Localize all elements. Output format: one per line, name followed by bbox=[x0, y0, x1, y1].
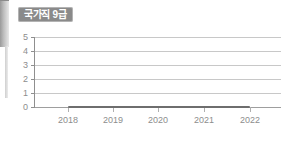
y-tick-mark bbox=[31, 107, 35, 108]
x-tick-label: 2022 bbox=[230, 116, 270, 125]
y-tick-mark bbox=[31, 51, 35, 52]
y-tick-label: 3 bbox=[14, 61, 28, 70]
series-line-gukgajik-9geup bbox=[68, 106, 250, 108]
y-tick-label: 0 bbox=[14, 103, 28, 112]
x-tick-label: 2021 bbox=[184, 116, 224, 125]
y-axis-labels: 5 4 3 2 1 0 bbox=[14, 26, 28, 144]
gridline-1 bbox=[34, 93, 281, 94]
chart-title-badge: 국가직 9급 bbox=[18, 7, 73, 22]
line-chart: 5 4 3 2 1 0 2018 2019 2020 2021 2022 bbox=[0, 26, 298, 144]
y-tick-label: 4 bbox=[14, 47, 28, 56]
y-tick-mark bbox=[31, 65, 35, 66]
y-tick-label: 5 bbox=[14, 33, 28, 42]
x-tick-mark bbox=[250, 107, 251, 112]
gridline-3 bbox=[34, 65, 281, 66]
y-tick-mark bbox=[31, 93, 35, 94]
y-tick-mark bbox=[31, 79, 35, 80]
y-tick-label: 2 bbox=[14, 75, 28, 84]
y-tick-label: 1 bbox=[14, 89, 28, 98]
x-tick-label: 2018 bbox=[48, 116, 88, 125]
x-tick-label: 2019 bbox=[93, 116, 133, 125]
gridline-5 bbox=[34, 37, 281, 38]
chart-title-text: 국가직 9급 bbox=[24, 10, 67, 20]
gridline-4 bbox=[34, 51, 281, 52]
x-axis-labels: 2018 2019 2020 2021 2022 bbox=[34, 116, 281, 130]
x-tick-label: 2020 bbox=[138, 116, 178, 125]
y-tick-mark bbox=[31, 37, 35, 38]
gridline-2 bbox=[34, 79, 281, 80]
y-axis-line bbox=[34, 37, 35, 108]
